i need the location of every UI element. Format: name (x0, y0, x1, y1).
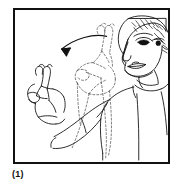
eyebrow (134, 33, 153, 36)
lips (128, 62, 146, 69)
torso (100, 87, 167, 160)
figure-panel: (1) (0, 0, 180, 186)
motion-arrow (62, 35, 107, 55)
hand-final-position (28, 64, 66, 124)
neck-and-collar (133, 70, 168, 97)
illustration-drawing (15, 10, 168, 162)
hand-start-position-ghost (72, 23, 116, 158)
ghost-hand-body (75, 51, 115, 95)
illustration-frame (13, 8, 170, 164)
ghost-fingers (97, 23, 114, 52)
figure-caption: (1) (12, 168, 24, 180)
